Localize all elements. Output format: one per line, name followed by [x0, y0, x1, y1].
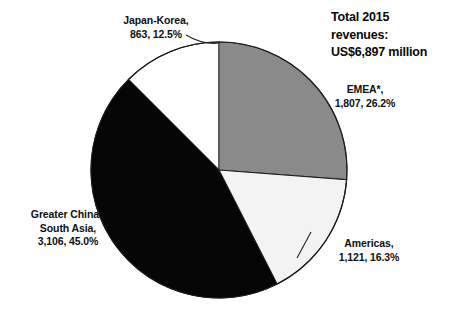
pie-label-americas: Americas, 1,121, 16.3% — [313, 237, 425, 264]
pie-label-emea: EMEA*, 1,807, 26.2% — [309, 83, 421, 110]
pie-label-japan-korea: Japan-Korea, 863, 12.5% — [96, 14, 216, 41]
pie-chart-figure: Total 2015 revenues: US$6,897 million Ja… — [0, 0, 461, 309]
pie-label-greater-china-south-asia: Greater China - South Asia, 3,106, 45.0% — [6, 208, 130, 249]
pie-slice-emea — [219, 42, 347, 180]
total-revenue-note: Total 2015 revenues: US$6,897 million — [331, 9, 456, 62]
